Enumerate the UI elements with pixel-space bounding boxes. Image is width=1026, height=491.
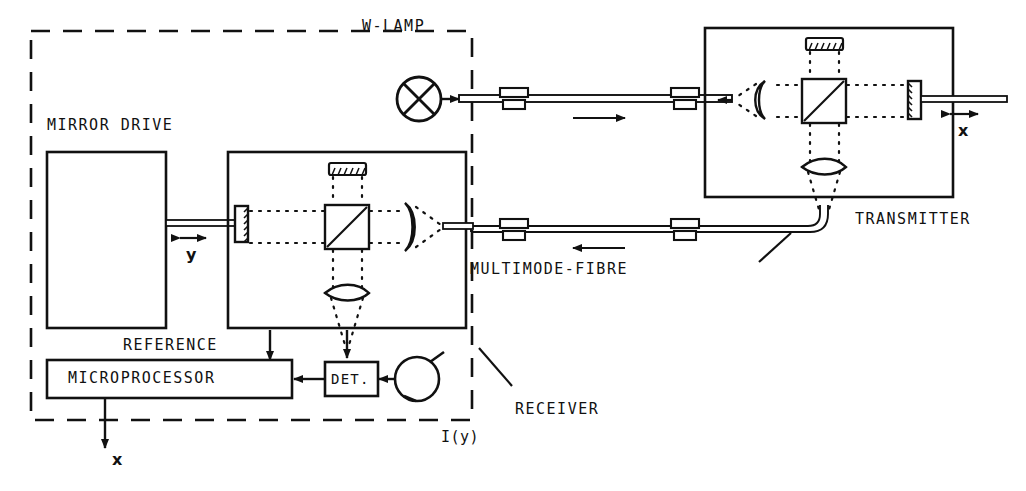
transmitter-beam-paths <box>735 52 907 213</box>
diagram-vector-layer <box>0 0 1026 491</box>
mirror-scan-variable-y: y <box>186 245 196 264</box>
transmitter-collimating-lens <box>755 81 765 119</box>
mirror-drive-block <box>47 152 166 328</box>
receiver-beam-paths <box>250 177 441 345</box>
transmitter-label: TRANSMITTER <box>855 212 971 227</box>
reference-label: REFERENCE <box>123 338 218 353</box>
receiver-leader-line <box>479 348 512 386</box>
w-lamp-label: W-LAMP <box>362 19 425 34</box>
receiver-collimating-lens <box>405 203 415 251</box>
mirror-drive-shaft <box>166 220 235 226</box>
receiver-label: RECEIVER <box>515 402 599 417</box>
microprocessor-label: MICROPROCESSOR <box>68 371 215 386</box>
measurand-variable-x: x <box>958 121 968 140</box>
fibre-link-return <box>443 205 828 248</box>
figure-canvas: W-LAMP MIRROR DRIVE y REFERENCE MICROPRO… <box>0 0 1026 491</box>
intensity-signal-label: I(y) <box>441 428 479 446</box>
fibre-link-outgoing <box>459 88 732 118</box>
receiver-beamsplitter-cube <box>325 205 369 249</box>
multimode-fibre-leader <box>759 233 791 262</box>
transmitter-beamsplitter-cube <box>802 79 846 123</box>
photodiode-symbol <box>379 352 444 401</box>
receiver-scanning-mirror <box>235 206 248 242</box>
mirror-drive-label: MIRROR DRIVE <box>47 118 173 133</box>
multimode-fibre-label: MULTIMODE-FIBRE <box>470 262 628 277</box>
receiver-reference-mirror <box>329 163 366 175</box>
output-variable-x: x <box>112 450 122 469</box>
detector-label: DET. <box>331 372 370 386</box>
transmitter-reference-mirror <box>806 38 843 50</box>
w-lamp-symbol <box>397 77 441 121</box>
